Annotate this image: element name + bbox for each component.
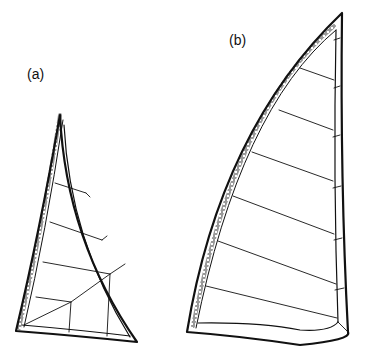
batten-4 (233, 196, 334, 234)
batten-1 (300, 68, 334, 80)
batten-6 (206, 286, 337, 318)
sail-a-leech-tape (64, 125, 130, 337)
sail-diagram (0, 0, 366, 354)
sail-a-outline (16, 115, 137, 342)
batten-3 (252, 152, 333, 181)
sail-b-leech-tape (335, 30, 338, 322)
sail-b-luff-sleeve (193, 26, 334, 326)
sail-a-foot-tape (22, 325, 130, 336)
sail-b (187, 13, 348, 345)
sail-b-outline (187, 13, 348, 345)
sail-a (16, 115, 137, 342)
sail-b-foot-tape (198, 322, 338, 330)
batten-5 (218, 241, 336, 284)
batten-2 (279, 110, 333, 130)
